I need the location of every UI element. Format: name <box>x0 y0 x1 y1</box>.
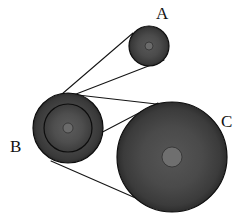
pulley-a-label: A <box>156 4 169 23</box>
belt-a-to-b-upper <box>62 33 133 94</box>
pulley-diagram-svg: A B C <box>0 0 244 215</box>
pulley-c-label: C <box>221 112 232 131</box>
pulley-b <box>33 93 103 163</box>
pulley-a <box>129 26 169 66</box>
pulley-b-label: B <box>10 137 21 156</box>
pulley-c <box>117 102 227 212</box>
pulley-b-hub-icon <box>63 123 73 133</box>
pulley-c-hub-icon <box>162 147 182 167</box>
pulley-diagram-canvas: A B C <box>0 0 244 215</box>
pulley-a-hub-icon <box>145 42 153 50</box>
